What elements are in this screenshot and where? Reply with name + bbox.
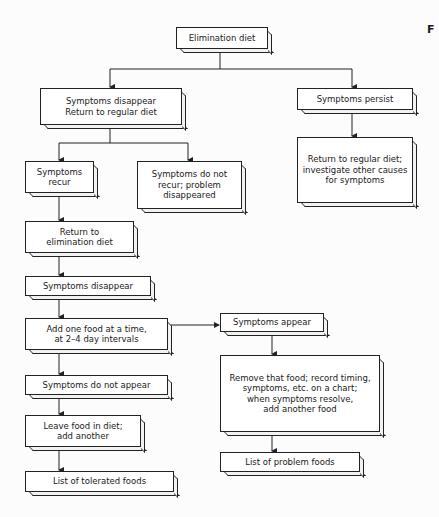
node-symptoms-do-not-appear: Symptoms do not appear	[25, 375, 168, 395]
node-leave-food-in-diet: Leave food in diet; add another	[25, 415, 141, 447]
node-symptoms-persist: Symptoms persist	[297, 88, 413, 110]
node-symptoms-disappear-return: Symptoms disappear Return to regular die…	[40, 88, 182, 125]
node-symptoms-recur: Symptoms recur	[25, 161, 94, 193]
node-remove-that-food: Remove that food; record timing, symptom…	[220, 355, 380, 432]
node-elimination-diet: Elimination diet	[176, 27, 268, 49]
node-add-one-food: Add one food at a time, at 2–4 day inter…	[25, 318, 168, 350]
node-list-tolerated-foods: List of tolerated foods	[25, 471, 174, 492]
node-list-problem-foods: List of problem foods	[220, 452, 360, 472]
node-symptoms-appear: Symptoms appear	[220, 313, 324, 332]
node-symptoms-do-not-recur: Symptoms do not recur; problem disappear…	[137, 161, 242, 209]
node-return-regular-investigate: Return to regular diet; investigate othe…	[297, 137, 413, 203]
node-return-to-elimination: Return to elimination diet	[25, 221, 134, 253]
corner-label: F	[427, 23, 435, 36]
node-symptoms-disappear: Symptoms disappear	[25, 276, 151, 296]
